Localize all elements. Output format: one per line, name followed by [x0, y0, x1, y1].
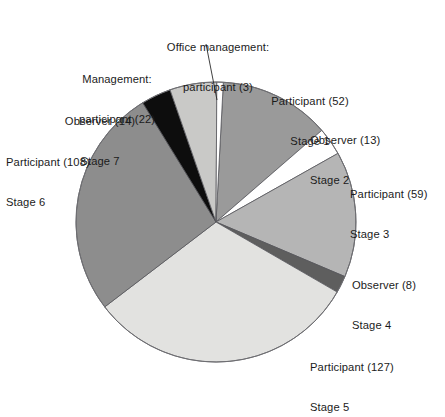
slice-label-participant-stage-6-line1: Participant (108) [6, 156, 136, 169]
slice-label-participant-stage-5: Participant (127) Stage 5 [310, 334, 440, 417]
slice-label-participant-stage-5-line1: Participant (127) [310, 361, 440, 374]
slice-label-participant-stage-6-line2: Stage 6 [6, 196, 136, 209]
slice-label-observer-stage-7-line1: Observer (14) [38, 115, 162, 128]
slice-label-participant-stage-3-line1: Participant (59) [350, 188, 445, 201]
slice-label-management-line1: Management: [52, 73, 182, 86]
slice-label-participant-stage-3-line2: Stage 3 [350, 228, 445, 241]
slice-label-observer-stage-2-line1: Observer (13) [310, 134, 438, 147]
slice-label-participant-stage-6: Participant (108) Stage 6 [6, 129, 136, 236]
slice-label-observer-stage-4-line1: Observer (8) [352, 279, 445, 292]
slice-label-observer-stage-4-line2: Stage 4 [352, 319, 445, 332]
slice-label-participant-stage-5-line2: Stage 5 [310, 401, 440, 414]
